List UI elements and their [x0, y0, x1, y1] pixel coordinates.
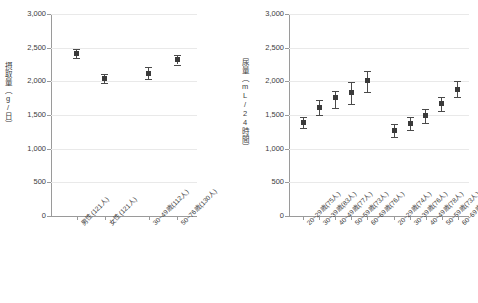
error-bar-cap-upper [422, 109, 429, 110]
x-tick-label: 40~49歳(77人) [338, 222, 343, 227]
error-bar-cap-lower [101, 83, 108, 84]
error-bar-cap-upper [407, 117, 414, 118]
data-marker [317, 105, 322, 110]
y-tick-label: 500 [253, 178, 284, 186]
x-tick-label: 30~49歳(112人) [152, 222, 157, 227]
data-marker [439, 101, 444, 106]
error-bar-cap-lower [454, 97, 461, 98]
urine-chart-panel: 尿量（mL/24時間） 3,0002,5002,0001,5001,000500… [239, 0, 478, 303]
error-bar-cap-lower [348, 104, 355, 105]
error-bar-cap-lower [364, 92, 371, 93]
data-point [171, 14, 183, 216]
x-tick-label: 男性(121人) [80, 222, 85, 227]
y-tick-mark [47, 182, 51, 183]
error-bar-cap-lower [145, 79, 152, 80]
y-tick-label: 3,000 [253, 10, 284, 18]
data-point [313, 14, 325, 216]
x-tick-mark [149, 216, 150, 220]
y-tick-label: 1,000 [15, 145, 46, 153]
y-tick-mark [285, 48, 289, 49]
chart-page: 摂取量（g/日） 3,0002,5002,0001,5001,0005000男性… [0, 0, 478, 303]
error-bar-cap-upper [316, 100, 323, 101]
x-tick-mark [177, 216, 178, 220]
error-bar-cap-lower [407, 130, 414, 131]
y-tick-mark [285, 115, 289, 116]
data-marker [365, 78, 370, 83]
x-tick-label: 50~59歳(73人) [354, 222, 359, 227]
y-tick-label: 3,000 [15, 10, 46, 18]
data-point [404, 14, 416, 216]
data-point [99, 14, 111, 216]
y-tick-mark [47, 115, 51, 116]
data-marker [102, 76, 107, 81]
urine-plot-area [289, 14, 469, 216]
x-tick-label: 50~76歳(130人) [180, 222, 185, 227]
data-marker [175, 57, 180, 62]
error-bar-cap-upper [101, 74, 108, 75]
x-tick-label: 40~49歳(78人) [429, 222, 434, 227]
y-tick-label: 1,000 [253, 145, 284, 153]
x-tick-label: 30~39歳(83人) [322, 222, 327, 227]
y-tick-label: 2,000 [253, 77, 284, 85]
intake-plot-area [51, 14, 197, 216]
error-bar-cap-lower [332, 108, 339, 109]
error-bar-cap-upper [73, 49, 80, 50]
y-tick-mark [47, 48, 51, 49]
error-bar-cap-lower [316, 115, 323, 116]
data-point [329, 14, 341, 216]
data-marker [423, 113, 428, 118]
data-point [388, 14, 400, 216]
error-bar-cap-lower [300, 128, 307, 129]
error-bar-cap-upper [438, 97, 445, 98]
y-tick-label: 0 [253, 212, 284, 220]
data-marker [333, 95, 338, 100]
y-tick-mark [47, 149, 51, 150]
y-tick-mark [285, 149, 289, 150]
y-tick-label: 0 [15, 212, 46, 220]
data-point [143, 14, 155, 216]
y-tick-label: 2,000 [15, 77, 46, 85]
error-bar-cap-upper [332, 91, 339, 92]
x-tick-mark [105, 216, 106, 220]
x-tick-label: 60~69歳(76人) [370, 222, 375, 227]
y-tick-label: 2,500 [253, 44, 284, 52]
y-tick-mark [285, 81, 289, 82]
x-tick-label: 50~59歳(73人) [445, 222, 450, 227]
error-bar-cap-upper [364, 71, 371, 72]
data-point [436, 14, 448, 216]
y-tick-label: 1,500 [15, 111, 46, 119]
error-bar-cap-lower [73, 58, 80, 59]
error-bar-cap-upper [391, 124, 398, 125]
x-tick-mark [77, 216, 78, 220]
x-tick-label: 30~39歳(76人) [413, 222, 418, 227]
x-tick-mark [303, 216, 304, 220]
y-tick-mark [285, 182, 289, 183]
data-point [71, 14, 83, 216]
data-marker [146, 71, 151, 76]
error-bar-cap-upper [454, 81, 461, 82]
x-axis-line [51, 216, 197, 217]
data-marker [455, 87, 460, 92]
intake-y-axis-title: 摂取量（g/日） [4, 62, 12, 128]
urine-y-axis-title: 尿量（mL/24時間） [241, 58, 249, 151]
data-marker [74, 51, 79, 56]
x-tick-label: 20~29歳(74人) [397, 222, 402, 227]
intake-chart-panel: 摂取量（g/日） 3,0002,5002,0001,5001,0005000男性… [0, 0, 239, 303]
data-marker [392, 128, 397, 133]
data-point [345, 14, 357, 216]
x-tick-label: 60~69歳(75人) [461, 222, 466, 227]
error-bar-cap-lower [422, 123, 429, 124]
data-marker [301, 120, 306, 125]
error-bar-cap-upper [174, 55, 181, 56]
y-tick-mark [285, 14, 289, 15]
y-tick-label: 2,500 [15, 44, 46, 52]
error-bar-cap-upper [300, 117, 307, 118]
data-point [361, 14, 373, 216]
y-tick-mark [47, 81, 51, 82]
y-tick-label: 500 [15, 178, 46, 186]
error-bar-cap-lower [174, 65, 181, 66]
x-tick-label: 女性(121人) [108, 222, 113, 227]
error-bar-cap-upper [348, 82, 355, 83]
y-tick-label: 1,500 [253, 111, 284, 119]
error-bar-cap-upper [145, 67, 152, 68]
